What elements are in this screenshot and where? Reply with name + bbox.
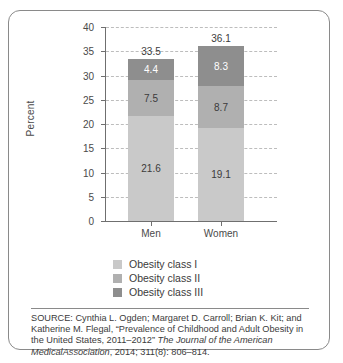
bar-segment-value: 19.1 — [211, 169, 230, 180]
legend-label: Obesity class III — [129, 286, 203, 298]
legend-swatch-icon — [113, 260, 122, 269]
legend-item-2[interactable]: Obesity class II — [113, 271, 293, 285]
source-citation: SOURCE: Cynthia L. Ogden; Margaret D. Ca… — [31, 313, 315, 358]
chart-legend: Obesity class IObesity class IIObesity c… — [113, 257, 293, 299]
x-tick-mark — [221, 222, 222, 226]
source-line-2: Katherine M. Flegal, “Prevalence of Chil… — [31, 324, 303, 334]
y-tick-mark: 35 — [101, 51, 105, 52]
y-tick-label: 30 — [83, 70, 94, 81]
x-axis-line — [105, 221, 277, 222]
legend-label: Obesity class I — [129, 258, 197, 270]
bar-segment-value: 4.4 — [144, 64, 158, 75]
source-line-1: SOURCE: Cynthia L. Ogden; Margaret D. Ca… — [31, 313, 302, 323]
bar-segment[interactable]: 8.7 — [198, 86, 244, 128]
bar-segment-value: 21.6 — [141, 163, 160, 174]
bar-segment-value: 7.5 — [144, 93, 158, 104]
y-tick-mark: 5 — [101, 197, 105, 198]
x-category-label-men: Men — [121, 228, 181, 239]
bar-segment[interactable]: 4.4 — [128, 59, 174, 80]
bar-total-label: 33.5 — [128, 46, 174, 57]
y-tick-label: 20 — [83, 119, 94, 130]
y-tick-label: 40 — [83, 22, 94, 33]
y-tick-label: 15 — [83, 143, 94, 154]
bar-total-label: 36.1 — [198, 33, 244, 44]
bar-segment-value: 8.7 — [214, 102, 228, 113]
x-tick-mark — [151, 222, 152, 226]
y-tick-mark: 40 — [101, 27, 105, 28]
source-journal-title-cont: Association — [63, 347, 110, 357]
bar-segment[interactable]: 19.1 — [198, 128, 244, 221]
bar-segment[interactable]: 21.6 — [128, 116, 174, 221]
gridline — [106, 27, 277, 28]
bar-women[interactable]: 36.18.38.719.1Women — [198, 46, 244, 221]
legend-label: Obesity class II — [129, 272, 200, 284]
y-tick-mark: 20 — [101, 124, 105, 125]
plot-area: 4035302520151050 33.54.47.521.6Men36.18.… — [105, 27, 277, 222]
legend-swatch-icon — [113, 274, 122, 283]
y-tick-label: 10 — [83, 167, 94, 178]
legend-item-3[interactable]: Obesity class III — [113, 285, 293, 299]
y-tick-label: 5 — [88, 191, 94, 202]
y-tick-mark: 15 — [101, 148, 105, 149]
y-tick-mark: 10 — [101, 173, 105, 174]
bar-segment[interactable]: 7.5 — [128, 80, 174, 116]
source-divider — [31, 308, 309, 309]
y-tick-label: 25 — [83, 94, 94, 105]
y-tick-label: 35 — [83, 46, 94, 57]
legend-item-1[interactable]: Obesity class I — [113, 257, 293, 271]
legend-swatch-icon — [113, 288, 122, 297]
stacked-bar-chart: Percent 4035302520151050 33.54.47.521.6M… — [9, 17, 331, 249]
y-tick-label: 0 — [88, 216, 94, 227]
bar-segment[interactable]: 8.3 — [198, 46, 244, 86]
y-axis-title: Percent — [25, 74, 36, 164]
x-category-label-women: Women — [191, 228, 251, 239]
bar-segment-value: 8.3 — [214, 61, 228, 72]
source-line-3-plain: the United States, 2011–2012” — [31, 335, 158, 345]
figure-card: Percent 4035302520151050 33.54.47.521.6M… — [8, 10, 330, 350]
source-line-4-plain: , 2014; 311(8): 806–814. — [110, 347, 210, 357]
y-tick-mark: 25 — [101, 100, 105, 101]
y-tick-mark: 30 — [101, 76, 105, 77]
bar-men[interactable]: 33.54.47.521.6Men — [128, 59, 174, 221]
y-tick-mark: 0 — [101, 221, 105, 222]
